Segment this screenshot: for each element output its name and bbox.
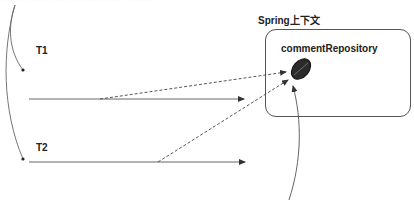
curve-to-t2 <box>6 5 23 159</box>
bean-object-icon <box>287 55 314 83</box>
t1-reference-arrow <box>100 72 286 99</box>
diagram-lines <box>0 0 414 202</box>
t2-reference-arrow <box>158 80 288 162</box>
curve-up-to-bean <box>289 86 299 200</box>
